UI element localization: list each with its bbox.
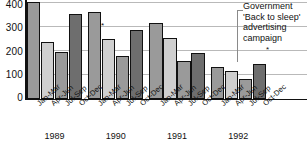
annotation-line-2: 'Back to sleep'	[243, 12, 307, 23]
y-axis: 400 300 200 100 0	[0, 0, 23, 144]
bar-1989-jan-mar	[27, 2, 40, 99]
annotation-line-1: Government	[243, 1, 307, 12]
y-tick-label-0: 0	[0, 93, 23, 103]
annotation-marker-icon: *	[266, 46, 269, 54]
y-tick-label-300: 300	[0, 23, 23, 33]
year-label-1991: 1991	[157, 131, 197, 141]
annotation-line-4: campaign	[243, 33, 307, 44]
year-label-1989: 1989	[35, 131, 75, 141]
year-label-1992: 1992	[218, 131, 258, 141]
campaign-annotation: Government 'Back to sleep' advertising c…	[243, 1, 307, 43]
plot-marker-icon: *	[101, 22, 104, 30]
y-tick-label-400: 400	[0, 0, 23, 10]
year-label-1990: 1990	[96, 131, 136, 141]
y-tick-label-100: 100	[0, 70, 23, 80]
callout-leader-vertical	[237, 10, 238, 62]
annotation-line-3: advertising	[243, 22, 307, 33]
bar-chart: 400 300 200 100 0 * Government 'Back to …	[0, 0, 307, 144]
y-tick-label-200: 200	[0, 47, 23, 57]
